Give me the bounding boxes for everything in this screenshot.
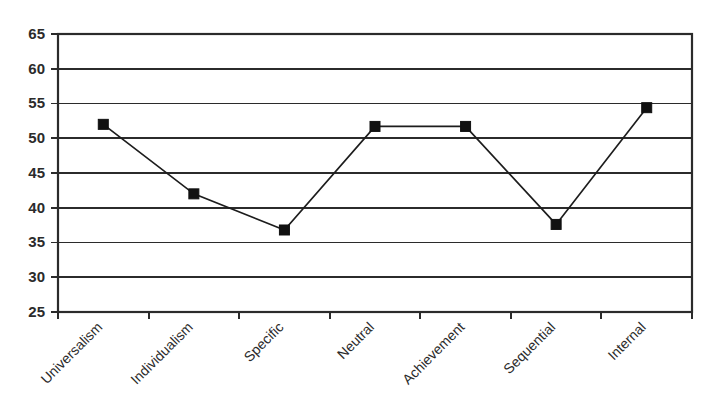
y-tick-label: 65 (28, 25, 45, 42)
data-point-markers (98, 103, 651, 235)
line-chart: 656055504540353025 UniversalismIndividua… (0, 0, 726, 410)
x-category-label: Specific (241, 319, 287, 365)
data-point-marker (551, 219, 561, 229)
data-point-marker (370, 121, 380, 131)
x-category-label: Universalism (37, 319, 105, 387)
y-tick-label: 30 (28, 268, 45, 285)
data-point-marker (279, 225, 289, 235)
data-point-marker (642, 103, 652, 113)
chart-canvas: 656055504540353025 UniversalismIndividua… (0, 0, 726, 410)
y-tick-label: 45 (28, 164, 45, 181)
x-category-label: Individualism (127, 319, 196, 388)
y-axis-tick-labels: 656055504540353025 (28, 25, 45, 320)
x-category-label: Achievement (399, 319, 468, 388)
y-tick-label: 55 (28, 94, 45, 111)
data-point-marker (461, 121, 471, 131)
y-tick-label: 60 (28, 60, 45, 77)
y-tick-label: 25 (28, 303, 45, 320)
x-axis-category-labels: UniversalismIndividualismSpecificNeutral… (37, 319, 648, 388)
y-tick-label: 40 (28, 199, 45, 216)
y-tick-label: 50 (28, 129, 45, 146)
x-category-label: Neutral (334, 319, 377, 362)
y-tick-label: 35 (28, 233, 45, 250)
x-category-label: Sequential (500, 319, 558, 377)
data-point-marker (189, 189, 199, 199)
data-point-marker (98, 119, 108, 129)
x-category-label: Internal (604, 319, 648, 363)
